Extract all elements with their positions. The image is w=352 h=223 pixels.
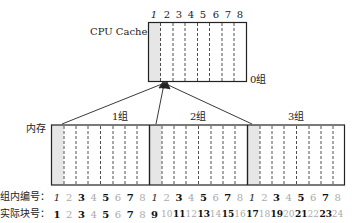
slot-number: 4 bbox=[185, 10, 197, 20]
group-index-value: 6 bbox=[307, 193, 319, 203]
group-index-value: 1 bbox=[246, 193, 258, 203]
group-index-value: 1 bbox=[149, 193, 161, 203]
memory-label: 内存 bbox=[26, 124, 46, 134]
group-index-value: 7 bbox=[222, 193, 234, 203]
block-index-value: 18 bbox=[258, 210, 270, 219]
group-3-label: 3组 bbox=[288, 112, 304, 122]
slot-number: 3 bbox=[173, 10, 185, 20]
block-index-value: 1 bbox=[51, 210, 63, 220]
cache-box bbox=[149, 23, 247, 82]
group-index-value: 5 bbox=[295, 193, 307, 203]
block-index-row-label: 实际块号： bbox=[0, 209, 50, 219]
block-index-value: 16 bbox=[234, 210, 246, 219]
block-index-value: 22 bbox=[307, 210, 319, 219]
cache-label: CPU Cache bbox=[90, 27, 147, 37]
group-index-value: 4 bbox=[185, 193, 197, 203]
group-index-value: 8 bbox=[332, 193, 344, 203]
block-index-value: 3 bbox=[75, 210, 87, 220]
group-index-value: 5 bbox=[100, 193, 112, 203]
block-index-value: 19 bbox=[271, 210, 283, 219]
block-index-value: 17 bbox=[246, 210, 258, 219]
block-index-value: 14 bbox=[210, 210, 222, 219]
group-index-value: 2 bbox=[258, 193, 270, 203]
group-index-value: 1 bbox=[51, 193, 63, 203]
group-index-value: 4 bbox=[88, 193, 100, 203]
block-index-value: 20 bbox=[283, 210, 295, 219]
group-index-value: 2 bbox=[63, 193, 75, 203]
group-index-value: 7 bbox=[124, 193, 136, 203]
group-index-value: 7 bbox=[319, 193, 331, 203]
block-index-value: 12 bbox=[185, 210, 197, 219]
group-index-value: 6 bbox=[112, 193, 124, 203]
block-index-value: 5 bbox=[100, 210, 112, 220]
block-index-value: 15 bbox=[222, 210, 234, 219]
group-index-value: 8 bbox=[136, 193, 148, 203]
mapping-arrows bbox=[62, 82, 252, 124]
group-index-value: 6 bbox=[210, 193, 222, 203]
block-index-value: 4 bbox=[88, 210, 100, 220]
group-index-value: 5 bbox=[197, 193, 209, 203]
block-index-value: 7 bbox=[124, 210, 136, 220]
group-index-value: 3 bbox=[271, 193, 283, 203]
group-index-value: 3 bbox=[173, 193, 185, 203]
group-index-value: 3 bbox=[75, 193, 87, 203]
block-index-value: 13 bbox=[197, 210, 209, 219]
block-index-value: 21 bbox=[295, 210, 307, 219]
slot-number: 1 bbox=[148, 10, 160, 20]
slot-number: 8 bbox=[234, 10, 246, 20]
group-index-value: 2 bbox=[161, 193, 173, 203]
block-index-value: 6 bbox=[112, 210, 124, 220]
group-index-row-label: 组内编号： bbox=[0, 192, 50, 202]
block-index-value: 23 bbox=[319, 210, 331, 219]
group-2-label: 2组 bbox=[190, 112, 206, 122]
block-index-value: 11 bbox=[173, 210, 185, 219]
cache-group-label: 0组 bbox=[250, 75, 266, 85]
group-index-value: 8 bbox=[234, 193, 246, 203]
group-1-label: 1组 bbox=[112, 112, 128, 122]
slot-number: 7 bbox=[222, 10, 234, 20]
block-index-value: 9 bbox=[149, 210, 161, 220]
block-index-value: 10 bbox=[161, 210, 173, 219]
block-index-value: 8 bbox=[136, 210, 148, 220]
block-index-value: 2 bbox=[63, 210, 75, 220]
group-index-value: 4 bbox=[283, 193, 295, 203]
slot-number: 5 bbox=[197, 10, 209, 20]
memory-box bbox=[52, 125, 345, 185]
slot-number: 6 bbox=[210, 10, 222, 20]
block-index-value: 24 bbox=[332, 210, 344, 219]
slot-number: 2 bbox=[161, 10, 173, 20]
